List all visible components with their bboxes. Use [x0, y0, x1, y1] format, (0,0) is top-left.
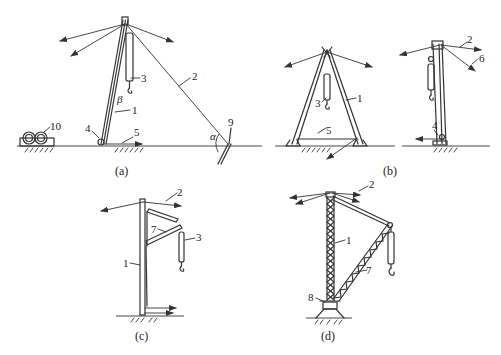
label-8: 8 — [308, 291, 314, 303]
label-2: 2 — [192, 70, 198, 82]
alpha-arc — [216, 134, 219, 152]
label-alpha: α — [210, 130, 216, 142]
leader-lines — [44, 78, 190, 143]
base-icon — [316, 301, 344, 318]
guy-ropes — [101, 202, 181, 313]
label-10: 10 — [50, 120, 62, 132]
pulley-block-icon — [179, 232, 184, 271]
label-1: 1 — [132, 104, 138, 116]
pulley-block-icon — [388, 227, 394, 275]
ground-hatch-icon — [302, 148, 457, 152]
lattice-mast-icon — [326, 192, 335, 300]
hoisting-mast-figure: 3 1 2 4 5 9 10 α β (a) — [0, 0, 501, 355]
label-1: 1 — [346, 234, 352, 246]
label-1: 1 — [123, 257, 129, 269]
pulley-block-icon — [324, 74, 330, 109]
panel-c: 7 3 1 2 (c) — [101, 186, 202, 343]
caption-c: (c) — [135, 329, 148, 343]
label-7: 7 — [366, 264, 372, 276]
ground-hatch-icon — [131, 318, 157, 322]
label-9: 9 — [228, 116, 234, 128]
boom-tie — [333, 196, 393, 228]
caption-a: (a) — [115, 164, 128, 178]
pulley-block-icon — [428, 57, 434, 101]
label-4: 4 — [432, 119, 438, 131]
label-3: 3 — [141, 72, 147, 84]
caption-b: (b) — [383, 164, 397, 178]
label-beta: β — [116, 93, 123, 105]
panel-a: 3 1 2 4 5 9 10 α β (a) — [17, 17, 250, 178]
guy-ropes — [290, 193, 360, 204]
label-4: 4 — [85, 122, 91, 134]
label-3: 3 — [315, 97, 321, 109]
label-5: 5 — [326, 124, 332, 136]
label-1: 1 — [357, 92, 363, 104]
label-2: 2 — [467, 33, 473, 45]
panel-b: 3 1 5 2 6 4 ( — [250, 33, 490, 178]
label-2: 2 — [369, 178, 375, 190]
label-3: 3 — [196, 231, 202, 243]
pulley-block-icon — [126, 33, 133, 93]
ground-hatch-icon — [315, 320, 342, 324]
label-5: 5 — [134, 126, 140, 138]
label-2: 2 — [177, 186, 183, 198]
label-6: 6 — [479, 52, 485, 64]
ground-hatch-icon — [25, 148, 143, 152]
label-7: 7 — [151, 223, 157, 235]
panel-d: 1 7 8 2 (d) — [290, 178, 394, 343]
winch-icon — [20, 132, 54, 146]
caption-d: (d) — [321, 329, 335, 343]
lattice-boom-icon — [334, 224, 392, 301]
